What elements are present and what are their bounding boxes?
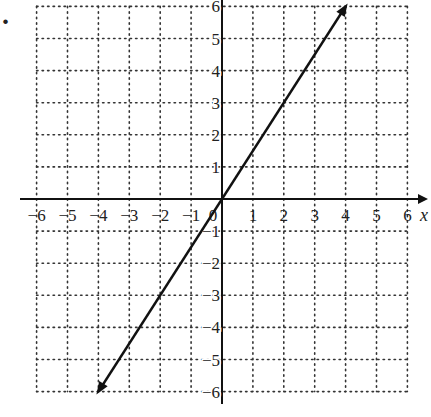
tick-labels: −6−5−4−3−2−10123456x−6−5−4−3−2−1123456 bbox=[28, 0, 428, 402]
x-tick-label: −4 bbox=[89, 206, 108, 225]
x-tick-label: −1 bbox=[182, 206, 200, 225]
x-tick-label: 4 bbox=[341, 206, 350, 225]
y-tick-label: 4 bbox=[212, 62, 221, 81]
problem-marker: . bbox=[2, 0, 9, 30]
x-tick-label: −6 bbox=[28, 206, 46, 225]
y-tick-label: 2 bbox=[212, 126, 221, 145]
y-tick-label: 1 bbox=[212, 158, 221, 177]
y-tick-label: 6 bbox=[212, 0, 221, 16]
y-tick-label: −6 bbox=[202, 383, 220, 402]
x-tick-label: −3 bbox=[120, 206, 138, 225]
y-tick-label: 5 bbox=[212, 30, 221, 49]
x-tick-label: 5 bbox=[372, 206, 381, 225]
arrowhead-top-icon bbox=[336, 3, 347, 17]
x-tick-label: 6 bbox=[403, 206, 412, 225]
y-tick-label: −2 bbox=[202, 254, 220, 273]
axes bbox=[20, 0, 428, 404]
x-axis-arrow-icon bbox=[418, 194, 428, 204]
y-tick-label: −3 bbox=[202, 286, 220, 305]
y-tick-label: −5 bbox=[202, 351, 220, 370]
x-axis-label: x bbox=[419, 205, 428, 225]
y-tick-label: −4 bbox=[202, 318, 221, 337]
x-tick-label: 2 bbox=[280, 206, 289, 225]
x-tick-label: −5 bbox=[58, 206, 76, 225]
x-tick-label: 3 bbox=[310, 206, 319, 225]
x-tick-label: 1 bbox=[249, 206, 258, 225]
coordinate-plane: . −6−5−4−3−2−10123456x−6−5−4−3−2−1123456 bbox=[0, 0, 431, 417]
y-tick-label: 3 bbox=[212, 94, 221, 113]
x-tick-label: −2 bbox=[151, 206, 169, 225]
arrowhead-bottom-icon bbox=[96, 381, 107, 395]
